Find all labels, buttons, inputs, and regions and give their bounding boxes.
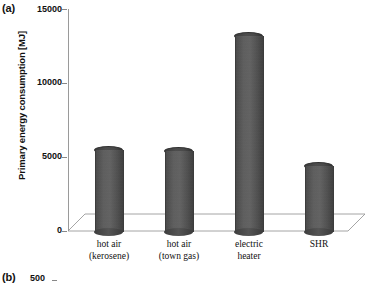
panel-b-partial-tick-mark: [52, 280, 57, 281]
x-category-line-1: hot air: [144, 239, 214, 251]
x-category-line-2: heater: [214, 251, 284, 263]
chart-panel-a: (a) Primary energy consumption [MJ] 1500…: [0, 0, 365, 265]
panel-b-partial-tick-label: 500: [30, 273, 45, 283]
panel-divider: [0, 262, 365, 265]
panel-label-b: (b): [2, 271, 15, 283]
x-category-line-2: (kerosene): [74, 251, 144, 263]
bar-hot-air-town-gas[interactable]: [165, 151, 192, 232]
bar-body: [165, 151, 194, 232]
bar-body: [235, 36, 264, 232]
bar-bottom-ellipse: [164, 228, 193, 236]
bar-bottom-ellipse: [94, 228, 123, 236]
x-category-label-shr: SHR: [284, 239, 354, 251]
bar-body: [305, 166, 334, 232]
x-category-label-electric-heater: electric heater: [214, 239, 284, 262]
bar-electric-heater[interactable]: [235, 36, 262, 232]
bar-bottom-ellipse: [304, 228, 333, 236]
bar-shr[interactable]: [305, 166, 332, 232]
x-category-line-1: SHR: [284, 239, 354, 251]
bar-hot-air-kerosene[interactable]: [95, 150, 122, 232]
bar-body: [95, 150, 124, 232]
x-category-line-1: electric: [214, 239, 284, 251]
x-category-line-2: (town gas): [144, 251, 214, 263]
x-category-line-1: hot air: [74, 239, 144, 251]
bar-bottom-ellipse: [234, 228, 263, 236]
x-category-label-hot-air-town-gas: hot air (town gas): [144, 239, 214, 262]
plot-area: [0, 0, 365, 265]
x-category-label-hot-air-kerosene: hot air (kerosene): [74, 239, 144, 262]
